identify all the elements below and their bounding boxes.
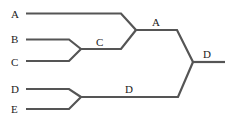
edge-leaf-c — [26, 49, 81, 61]
leaf-label-b: B — [11, 33, 18, 45]
leaf-label-d: D — [11, 83, 19, 95]
edge-merge-de — [81, 62, 193, 97]
edge-leaf-a — [26, 14, 136, 31]
merge-label-ac: A — [152, 16, 160, 28]
leaf-label-e: E — [11, 103, 18, 115]
edge-merge-bc — [81, 30, 136, 49]
leaf-label-c: C — [11, 56, 18, 68]
leaf-label-a: A — [11, 8, 19, 20]
merge-label-de: D — [125, 83, 133, 95]
bracket-tree-diagram: A B C D E C A D D — [0, 0, 236, 126]
edge-leaf-b — [26, 40, 81, 50]
edge-leaf-e — [26, 97, 81, 109]
edge-merge-ac — [136, 30, 193, 62]
merge-label-bc: C — [96, 36, 103, 48]
edge-leaf-d — [26, 89, 81, 97]
root-label: D — [203, 48, 211, 60]
